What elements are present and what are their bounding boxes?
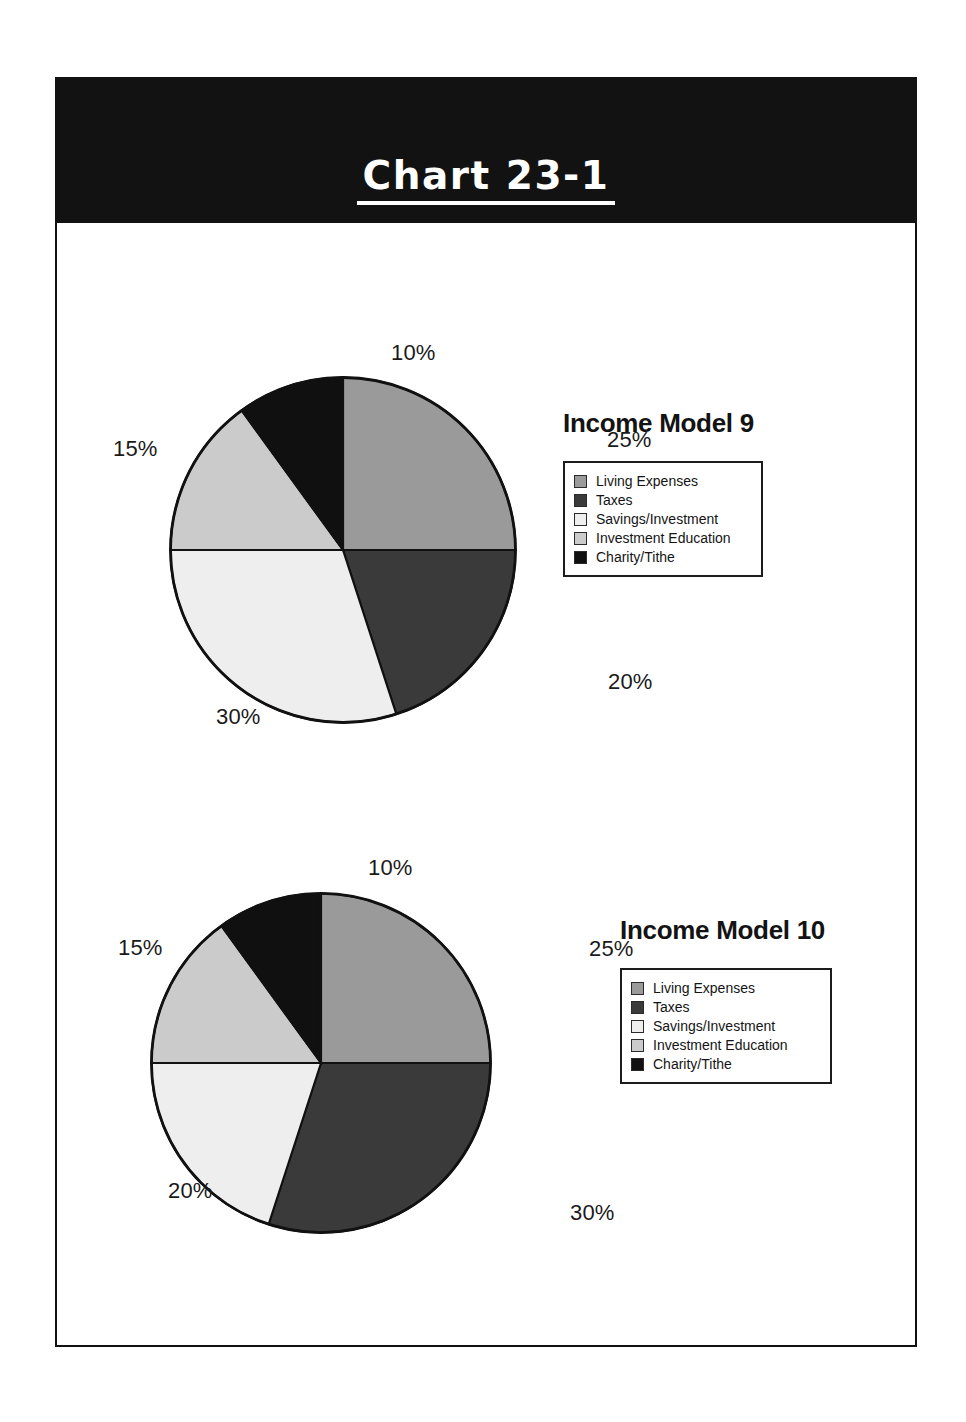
legend-label-living-expenses: Living Expenses — [653, 981, 755, 995]
pie-1-label-investment-education: 15% — [113, 436, 158, 462]
pie-svg-1 — [167, 374, 519, 726]
pie-chart-income-model-9 — [167, 374, 519, 726]
title-banner: Chart 23-1 — [55, 77, 917, 223]
model-title-2: Income Model 10 — [620, 915, 950, 946]
legend-swatch-charity-tithe-icon — [574, 551, 587, 564]
legend-swatch-charity-tithe-icon — [631, 1058, 644, 1071]
legend-swatch-living-expenses-icon — [574, 475, 587, 488]
legend-item-savings-investment[interactable]: Savings/Investment — [574, 510, 749, 528]
pie-2-label-charity-tithe: 10% — [368, 855, 413, 881]
pie-slice-living-expenses[interactable] — [321, 893, 491, 1063]
pie-2-label-investment-education: 15% — [118, 935, 163, 961]
chart-section-income-model-10: 10% 25% 30% 20% 15% Income Model 10 Livi… — [0, 855, 966, 1285]
legend-label-taxes: Taxes — [653, 1000, 690, 1014]
legend-swatch-savings-investment-icon — [574, 513, 587, 526]
legend-item-charity-tithe[interactable]: Charity/Tithe — [574, 548, 749, 566]
pie-1-label-savings-investment: 30% — [216, 704, 261, 730]
legend-item-investment-education[interactable]: Investment Education — [574, 529, 749, 547]
legend-item-living-expenses[interactable]: Living Expenses — [631, 979, 818, 997]
legend-swatch-savings-investment-icon — [631, 1020, 644, 1033]
legend-income-model-10: Living Expenses Taxes Savings/Investment… — [620, 968, 832, 1084]
legend-label-taxes: Taxes — [596, 493, 633, 507]
legend-label-charity-tithe: Charity/Tithe — [653, 1057, 732, 1071]
legend-swatch-taxes-icon — [631, 1001, 644, 1014]
pie-2-label-taxes: 30% — [570, 1200, 615, 1226]
legend-swatch-living-expenses-icon — [631, 982, 644, 995]
legend-item-savings-investment[interactable]: Savings/Investment — [631, 1017, 818, 1035]
legend-label-charity-tithe: Charity/Tithe — [596, 550, 675, 564]
legend-item-taxes[interactable]: Taxes — [631, 998, 818, 1016]
pie-1-label-charity-tithe: 10% — [391, 340, 436, 366]
legend-label-investment-education: Investment Education — [653, 1038, 788, 1052]
side-panel-income-model-9: Income Model 9 Living Expenses Taxes Sav… — [563, 408, 893, 577]
legend-item-charity-tithe[interactable]: Charity/Tithe — [631, 1055, 818, 1073]
legend-item-investment-education[interactable]: Investment Education — [631, 1036, 818, 1054]
legend-swatch-investment-education-icon — [574, 532, 587, 545]
legend-label-savings-investment: Savings/Investment — [653, 1019, 775, 1033]
legend-item-living-expenses[interactable]: Living Expenses — [574, 472, 749, 490]
legend-swatch-investment-education-icon — [631, 1039, 644, 1052]
legend-swatch-taxes-icon — [574, 494, 587, 507]
model-title-1: Income Model 9 — [563, 408, 893, 439]
legend-label-living-expenses: Living Expenses — [596, 474, 698, 488]
legend-income-model-9: Living Expenses Taxes Savings/Investment… — [563, 461, 763, 577]
legend-item-taxes[interactable]: Taxes — [574, 491, 749, 509]
pie-1-label-taxes: 20% — [608, 669, 653, 695]
pie-slice-living-expenses[interactable] — [343, 378, 515, 550]
page-title: Chart 23-1 — [357, 156, 616, 205]
legend-label-savings-investment: Savings/Investment — [596, 512, 718, 526]
pie-2-label-savings-investment: 20% — [168, 1178, 213, 1204]
legend-label-investment-education: Investment Education — [596, 531, 731, 545]
chart-section-income-model-9: 10% 25% 20% 30% 15% Income Model 9 Livin… — [0, 340, 966, 770]
side-panel-income-model-10: Income Model 10 Living Expenses Taxes Sa… — [620, 915, 950, 1084]
